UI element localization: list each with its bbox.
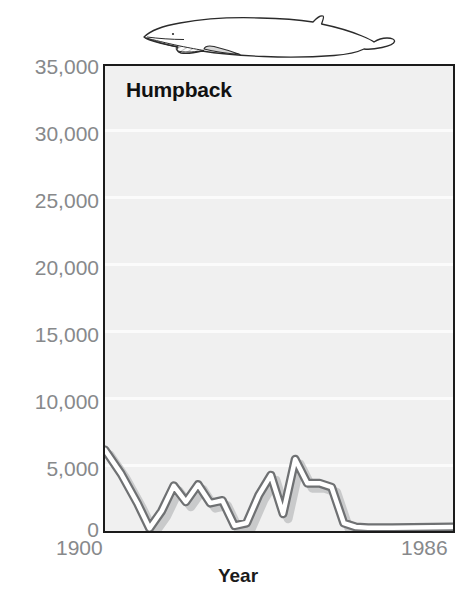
chart-title: Humpback	[126, 78, 232, 102]
y-tick-15000: 15,000	[3, 324, 99, 345]
plot-inner: Humpback	[105, 66, 453, 531]
y-tick-30000: 30,000	[3, 123, 99, 144]
y-tick-35000: 35,000	[3, 56, 99, 77]
x-tick-1900: 1900	[56, 536, 103, 560]
plot-area: Humpback	[103, 64, 455, 533]
data-series-line	[105, 66, 453, 531]
x-tick-1986: 1986	[401, 536, 448, 560]
x-axis-tick-labels: 1900 1986	[0, 536, 476, 566]
y-tick-25000: 25,000	[3, 190, 99, 211]
y-tick-5000: 5,000	[3, 458, 99, 479]
x-axis-title: Year	[0, 565, 476, 587]
y-tick-10000: 10,000	[3, 391, 99, 412]
whale-catch-chart-figure: 35,000 30,000 25,000 20,000 15,000 10,00…	[0, 0, 476, 606]
humpback-whale-illustration	[136, 8, 402, 64]
y-axis-tick-labels: 35,000 30,000 25,000 20,000 15,000 10,00…	[0, 0, 99, 606]
y-tick-20000: 20,000	[3, 257, 99, 278]
